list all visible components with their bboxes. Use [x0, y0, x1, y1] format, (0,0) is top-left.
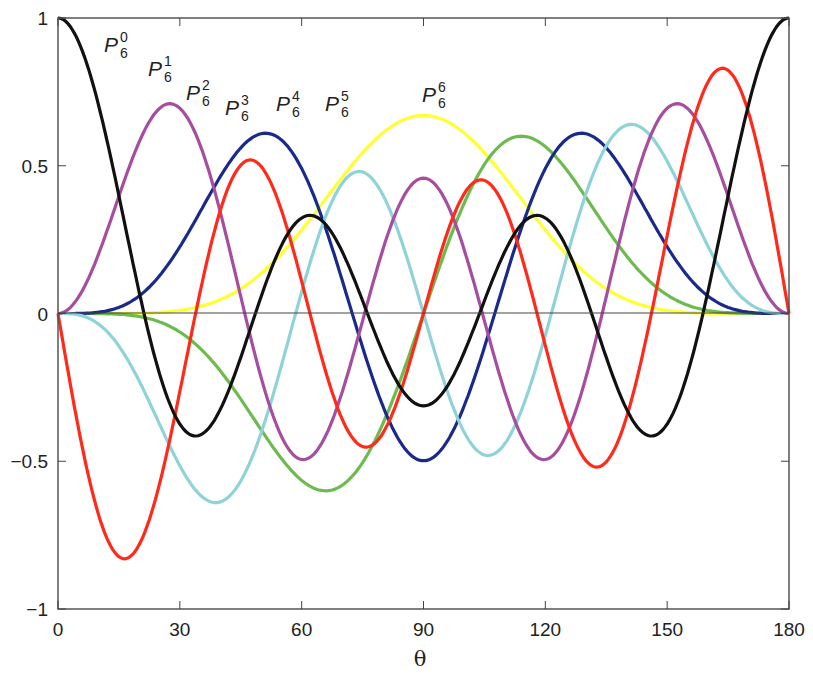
- x-tick-label: 150: [651, 619, 683, 640]
- svg-text:6: 6: [241, 108, 249, 124]
- axis-ticks: 0306090120150180−1−0.500.51: [10, 8, 804, 640]
- svg-text:0: 0: [120, 29, 128, 45]
- x-tick-label: 120: [529, 619, 561, 640]
- y-tick-label: 0: [37, 304, 48, 325]
- svg-text:6: 6: [202, 93, 210, 109]
- x-axis-label: θ: [414, 647, 427, 671]
- curve-labels: P06P16P26P36P46P56P66: [104, 29, 446, 124]
- curve-label-p6-2: P: [186, 81, 200, 104]
- curve-label-p6-0: P: [104, 33, 118, 56]
- curve-p6-6: [58, 116, 789, 314]
- svg-text:6: 6: [292, 104, 300, 120]
- x-tick-label: 0: [53, 619, 64, 640]
- svg-text:1: 1: [164, 53, 172, 69]
- svg-text:6: 6: [120, 45, 128, 61]
- curve-label-p6-4: P: [276, 92, 290, 115]
- svg-text:6: 6: [164, 69, 172, 85]
- svg-text:6: 6: [341, 104, 349, 120]
- y-tick-label: −0.5: [10, 451, 48, 472]
- legendre-chart: 0306090120150180−1−0.500.51 P06P16P26P36…: [0, 0, 813, 680]
- curve-label-p6-5: P: [325, 92, 339, 115]
- x-tick-label: 90: [413, 619, 434, 640]
- svg-text:6: 6: [438, 95, 446, 111]
- svg-text:2: 2: [202, 77, 210, 93]
- y-tick-label: 1: [37, 8, 48, 29]
- y-tick-label: −1: [26, 599, 48, 620]
- x-tick-label: 30: [169, 619, 190, 640]
- svg-text:6: 6: [438, 79, 446, 95]
- svg-text:5: 5: [341, 88, 349, 104]
- curve-label-p6-1: P: [148, 57, 162, 80]
- x-tick-label: 180: [773, 619, 805, 640]
- x-tick-label: 60: [291, 619, 312, 640]
- svg-text:3: 3: [241, 92, 249, 108]
- curve-label-p6-3: P: [225, 96, 239, 119]
- curve-label-p6-6: P: [422, 83, 436, 106]
- y-tick-label: 0.5: [22, 156, 48, 177]
- svg-text:4: 4: [292, 88, 300, 104]
